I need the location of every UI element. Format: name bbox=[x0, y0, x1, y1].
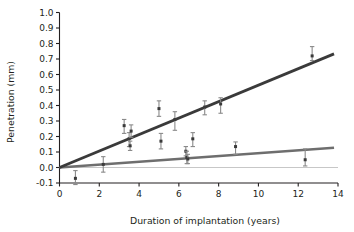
data-point-marker bbox=[203, 106, 206, 109]
x-axis-tick-label: 2 bbox=[96, 189, 102, 199]
y-axis-tick-label: -0.1 bbox=[36, 178, 54, 188]
penetration-vs-duration-chart: -0.10.00.10.20.30.40.50.60.70.80.91.0024… bbox=[0, 0, 354, 232]
y-axis-tick-label: 0.9 bbox=[39, 23, 54, 33]
data-point-marker bbox=[102, 163, 105, 166]
y-axis-tick-label: 1.0 bbox=[39, 8, 54, 18]
x-axis-title: Duration of implantation (years) bbox=[130, 215, 280, 226]
y-axis-tick-label: 0.8 bbox=[39, 39, 54, 49]
data-point-marker bbox=[191, 137, 194, 140]
x-axis-tick-label: 4 bbox=[136, 189, 142, 199]
y-axis-tick-label: 0.5 bbox=[39, 85, 53, 95]
y-axis-tick-label: 0.0 bbox=[39, 163, 54, 173]
data-point-marker bbox=[130, 130, 133, 133]
data-point-marker bbox=[234, 145, 237, 148]
data-point-marker bbox=[74, 177, 77, 180]
y-axis-tick-label: 0.2 bbox=[39, 132, 53, 142]
x-axis-tick-label: 0 bbox=[57, 189, 63, 199]
x-axis-tick-label: 8 bbox=[216, 189, 222, 199]
y-axis-tick-label: 0.1 bbox=[39, 147, 53, 157]
data-point-marker bbox=[304, 158, 307, 161]
x-axis-tick-label: 14 bbox=[332, 189, 344, 199]
data-point-marker bbox=[123, 124, 126, 127]
y-axis-tick-label: 0.7 bbox=[39, 54, 53, 64]
data-point-marker bbox=[129, 144, 132, 147]
y-axis-tick-label: 0.3 bbox=[39, 116, 53, 126]
data-point-marker bbox=[219, 102, 222, 105]
data-point-marker bbox=[173, 118, 176, 121]
data-point-marker bbox=[159, 140, 162, 143]
x-axis-tick-label: 6 bbox=[176, 189, 182, 199]
y-axis-tick-label: 0.6 bbox=[39, 70, 54, 80]
data-point-marker bbox=[157, 107, 160, 110]
x-axis-tick-label: 12 bbox=[292, 189, 303, 199]
y-axis-tick-label: 0.4 bbox=[39, 101, 54, 111]
data-point-marker bbox=[311, 54, 314, 57]
y-axis-title: Penetration (mm) bbox=[5, 61, 16, 143]
data-point-marker bbox=[186, 157, 189, 160]
x-axis-tick-label: 10 bbox=[253, 189, 265, 199]
